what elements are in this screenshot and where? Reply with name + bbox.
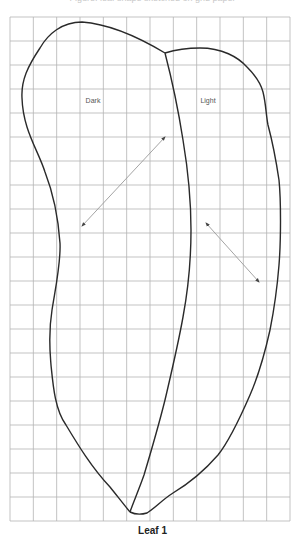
- grid-paper: [10, 17, 290, 521]
- light-width-arrow: [206, 223, 259, 282]
- light-region-label: Light: [200, 97, 215, 105]
- midrib-line: [130, 53, 191, 512]
- dark-region-outline: [22, 22, 165, 512]
- dark-width-arrow: [82, 137, 165, 226]
- dark-region-label: Dark: [86, 97, 101, 104]
- leaf-title: Leaf 1: [0, 525, 305, 536]
